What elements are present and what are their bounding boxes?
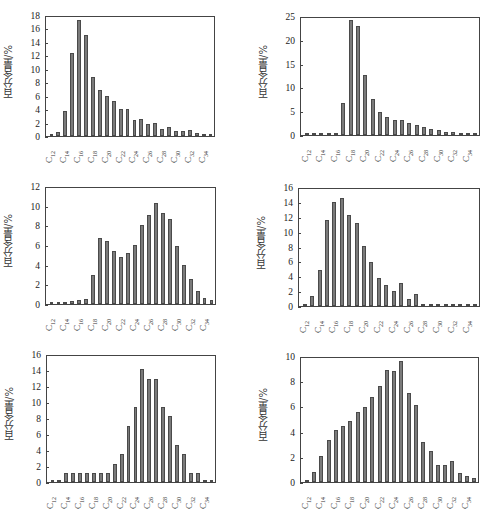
x-tick-label: C20 [357,321,369,333]
bar [78,473,82,482]
x-tick-label: C14 [59,497,71,509]
y-tick-mark [300,112,303,113]
bar [174,131,178,136]
bar [57,480,61,482]
bar [77,300,81,304]
x-tick-label: C16 [72,319,84,331]
bar [407,123,411,135]
bar [310,296,314,306]
x-tick-label: C16 [73,497,85,509]
bar [154,203,158,304]
y-tick-mark [298,233,301,234]
bar [465,476,469,482]
bar [92,473,96,482]
x-tick-label: C14 [58,151,70,163]
y-tick-mark [298,277,301,278]
x-tick-label: C18 [342,321,354,333]
x-tick-label: C22 [373,150,385,162]
y-tick-label: 0 [18,300,40,310]
bar [175,246,179,305]
x-tick-label: C14 [58,319,70,331]
bar [340,198,344,306]
y-tick-label: 6 [19,430,41,440]
plot-area [298,188,480,307]
y-tick-label: 12 [271,213,293,223]
y-tick-mark [45,266,48,267]
y-tick-label: 10 [273,352,295,362]
y-tick-label: 12 [18,51,40,61]
bar [363,407,367,482]
y-tick-mark [300,136,303,137]
y-axis-label: 百分含量/% [1,214,16,267]
bar [127,426,131,482]
bar [443,465,447,483]
bar [429,304,433,306]
bar [444,132,448,135]
bar [210,480,214,482]
bar [341,103,345,135]
x-tick-label: C14 [314,497,326,509]
y-tick-label: 4 [18,105,40,115]
bar [327,133,331,135]
bar [140,369,144,482]
y-tick-mark [300,65,303,66]
y-tick-label: 2 [273,453,295,463]
bar [181,131,185,136]
bar [407,393,411,482]
y-tick-label: 0 [273,478,295,488]
bar [203,480,207,482]
bar [399,283,403,306]
y-tick-label: 0 [273,131,295,141]
bar [160,129,164,136]
bar [51,480,55,482]
x-tick-label: C22 [114,151,126,163]
y-tick-mark [46,387,49,388]
bar [473,133,477,135]
bar [105,96,109,136]
bar [182,454,186,482]
bar [384,285,388,306]
bar [85,473,89,482]
bar [356,412,360,482]
bar [189,473,193,482]
bar [392,291,396,306]
y-tick-label: 10 [19,398,41,408]
bar [415,125,419,135]
x-tick-label: C24 [128,319,140,331]
bar [472,478,476,482]
y-tick-mark [46,419,49,420]
plot-area [300,357,479,483]
x-tick-label: C26 [402,497,414,509]
y-tick-mark [298,248,301,249]
bar [429,129,433,135]
x-tick-label: C18 [86,319,98,331]
bar [370,397,374,482]
y-tick-label: 0 [19,478,41,488]
bar [414,405,418,483]
bar [112,101,116,136]
x-tick-label: C26 [142,319,154,331]
bar [407,299,411,306]
y-tick-label: 2 [18,280,40,290]
bar [64,473,68,482]
y-tick-mark [300,88,303,89]
x-tick-label: C20 [100,319,112,331]
bar [421,304,425,306]
x-tick-label: C34 [198,497,210,509]
y-tick-label: 14 [19,366,41,376]
y-tick-label: 4 [19,446,41,456]
bar [347,215,351,306]
x-tick-label: C18 [343,497,355,509]
bar [458,304,462,306]
y-tick-mark [46,483,49,484]
bar [421,442,425,482]
bar [341,426,345,482]
bar [414,294,418,306]
x-tick-label: C24 [128,497,140,509]
y-tick-label: 8 [273,377,295,387]
bar [119,109,123,136]
x-tick-label: C32 [183,151,195,163]
y-tick-mark [45,124,48,125]
y-tick-mark [46,451,49,452]
bar [334,430,338,483]
